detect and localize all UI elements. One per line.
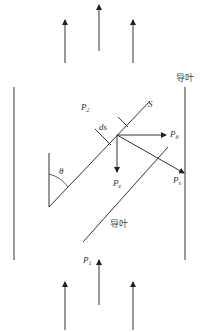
streamline-label: S <box>148 99 153 109</box>
p-theta-label: Pθ <box>169 129 179 140</box>
outlet-flow-arrows <box>65 5 133 63</box>
guide-vane-lower-label: 导叶 <box>110 219 128 229</box>
inlet-flow-arrows <box>65 260 133 330</box>
p-s-label: Ps <box>172 175 182 186</box>
ds-tick-upper <box>118 117 128 127</box>
guide-vane-upper <box>49 101 150 207</box>
guide-vane-right-label: 导叶 <box>176 73 194 83</box>
theta-label: θ <box>59 166 64 176</box>
p2-label: P2 <box>80 102 90 113</box>
p1-label: P1 <box>82 255 92 266</box>
p-z-label: Pz <box>112 178 122 189</box>
ds-label: ds <box>99 122 108 132</box>
guide-vane-force-diagram: 导叶 导叶 S ds θ P2 P1 Pθ Pz Ps <box>0 0 201 332</box>
